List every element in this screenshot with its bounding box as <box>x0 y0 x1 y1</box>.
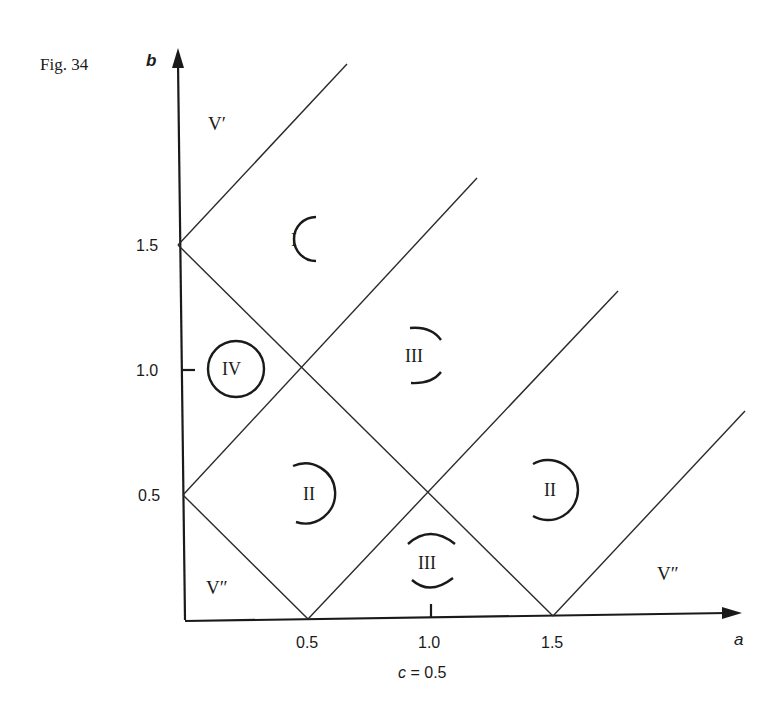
x-axis-arrow-icon <box>722 607 742 619</box>
boundary-b-eq-a-plus-1.5 <box>178 64 347 245</box>
arc-marker-icon <box>294 217 316 261</box>
boundary-b-eq-a-minus-1.5 <box>553 411 745 616</box>
boundary-lines <box>178 64 745 619</box>
caption-variable: c <box>398 664 406 681</box>
arc-top-marker-icon <box>410 328 441 340</box>
region-II-right: II <box>533 460 578 520</box>
boundary-b-eq-1.5-minus-a <box>178 245 553 616</box>
x-tick-label-0.5: 0.5 <box>296 634 318 651</box>
x-tick-label-1.5: 1.5 <box>541 634 563 651</box>
arc-bottom-marker-icon <box>411 372 441 383</box>
y-axis: b 1.5 1.0 0.5 <box>136 48 195 620</box>
region-label-IV: IV <box>222 359 241 379</box>
region-III-upper: III <box>405 328 441 383</box>
region-I: I <box>291 217 316 261</box>
y-axis-label: b <box>146 51 156 70</box>
region-III-lower: III <box>408 534 455 588</box>
region-label-v-double-prime-right: V″ <box>657 563 679 584</box>
arc-top-marker-icon <box>408 534 455 544</box>
y-axis-arrow-icon <box>172 48 184 68</box>
figure-label: Fig. 34 <box>40 55 89 74</box>
y-tick-label-1.5: 1.5 <box>136 237 158 254</box>
region-labels: V′ I IV III II II I <box>206 113 679 598</box>
region-label-II-left: II <box>303 484 315 504</box>
y-tick-label-1.0: 1.0 <box>136 362 158 379</box>
region-II-left: II <box>293 463 335 523</box>
x-tick-label-1.0: 1.0 <box>418 634 440 651</box>
boundary-b-eq-a-minus-0.5 <box>308 291 618 619</box>
phase-diagram: Fig. 34 b 1.5 1.0 0.5 a 0.5 1.0 1.5 c = … <box>0 0 780 708</box>
region-label-III-upper: III <box>405 346 423 366</box>
region-label-III-lower: III <box>418 553 436 573</box>
caption-value: = 0.5 <box>406 664 447 681</box>
region-label-II-right: II <box>544 480 556 500</box>
region-label-I: I <box>291 230 297 250</box>
caption: c = 0.5 <box>398 664 447 681</box>
arc-bottom-marker-icon <box>412 578 453 588</box>
boundary-b-eq-a-plus-0.5 <box>183 178 477 495</box>
region-label-v-double-prime-left: V″ <box>206 577 228 598</box>
x-axis: a 0.5 1.0 1.5 <box>185 604 743 651</box>
x-axis-label: a <box>734 630 743 649</box>
x-axis-line <box>185 613 728 621</box>
y-tick-label-0.5: 0.5 <box>138 487 160 504</box>
region-label-v-prime: V′ <box>208 113 226 134</box>
boundary-b-eq-0.5-minus-a <box>183 495 308 619</box>
y-axis-line <box>178 62 185 620</box>
region-IV: IV <box>208 341 264 397</box>
